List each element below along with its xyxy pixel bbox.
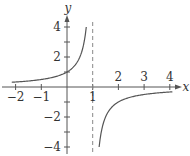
x-tick-label: 1: [89, 90, 97, 104]
y-axis-arrow-icon: [65, 15, 70, 22]
curve-right-branch: [99, 92, 172, 147]
x-axis-label: x: [183, 80, 190, 94]
y-tick-label: −4: [43, 140, 61, 154]
curve-left-branch: [12, 27, 87, 82]
axes: [2, 15, 182, 154]
x-axis-arrow-icon: [175, 85, 182, 90]
function-plot: −2−1123442−2−4xy: [0, 0, 190, 156]
x-tick-label: 3: [140, 70, 148, 84]
y-tick-label: −2: [43, 110, 61, 124]
x-tick-label: −1: [32, 90, 50, 104]
x-tick-label: 2: [115, 70, 123, 84]
y-tick-label: 4: [53, 20, 61, 34]
x-tick-label: −2: [7, 90, 25, 104]
tick-labels: −2−1123442−2−4xy: [7, 1, 190, 154]
y-axis-label: y: [64, 1, 72, 15]
y-tick-label: 2: [53, 50, 61, 64]
x-tick-label: 4: [166, 70, 174, 84]
